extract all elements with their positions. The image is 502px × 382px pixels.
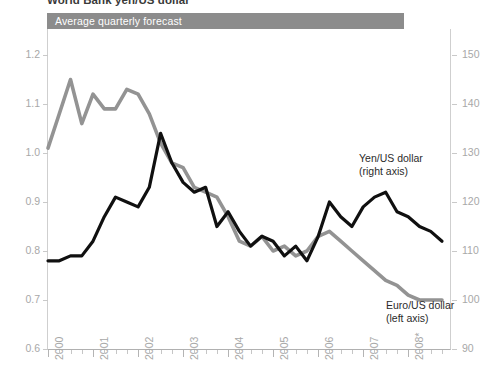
series-layer	[0, 0, 502, 382]
annotation-yen-line1: Yen/US dollar	[359, 152, 423, 165]
annotation-euro: Euro/US dollar (left axis)	[386, 299, 454, 324]
annotation-yen: Yen/US dollar (right axis)	[359, 152, 423, 177]
annotation-euro-line1: Euro/US dollar	[386, 299, 454, 312]
annotation-euro-line2: (left axis)	[386, 312, 454, 325]
chart-figure: World Bank yen/US dollar Average quarter…	[0, 0, 502, 382]
series-line-euro	[48, 80, 442, 301]
annotation-yen-line2: (right axis)	[359, 165, 423, 178]
